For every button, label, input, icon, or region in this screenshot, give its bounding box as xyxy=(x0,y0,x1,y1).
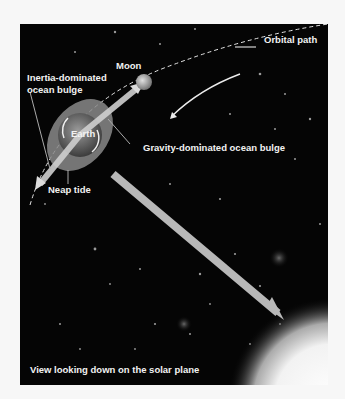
caption: View looking down on the solar plane xyxy=(30,364,199,375)
label-orbital-path: Orbital path xyxy=(264,34,317,45)
label-gravity: Gravity-dominated ocean bulge xyxy=(143,142,285,153)
label-neap-tide: Neap tide xyxy=(48,184,91,195)
inertia-leader xyxy=(30,92,50,169)
sun-direction-arrow xyxy=(113,174,278,313)
glow-star xyxy=(269,248,289,268)
label-inertia-line1: Inertia-dominated xyxy=(27,72,107,83)
label-earth: Earth xyxy=(71,128,95,139)
glow-star xyxy=(176,316,192,332)
orbit-direction-arrow xyxy=(172,74,240,116)
diagram-panel: Orbital path Moon Inertia-dominated ocea… xyxy=(20,24,328,385)
label-inertia-line2: ocean bulge xyxy=(27,84,82,95)
label-moon: Moon xyxy=(116,60,141,71)
moon xyxy=(136,74,152,90)
